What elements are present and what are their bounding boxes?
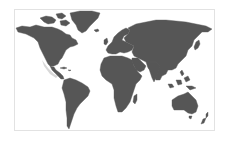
world-map [0,0,229,142]
british-isles [104,38,108,45]
australia [172,92,198,114]
arctic-islands [40,13,70,26]
south-america [62,78,90,129]
tasmania [189,116,192,119]
new-zealand [201,112,208,124]
southeast-asia-islands [168,70,196,90]
japan [194,40,200,50]
north-america [16,25,78,66]
madagascar [133,94,137,104]
caribbean-islands [60,67,71,71]
iceland [94,29,99,32]
